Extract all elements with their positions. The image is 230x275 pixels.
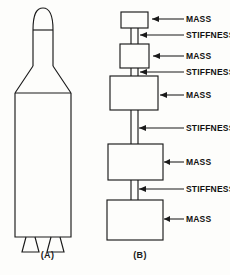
interstage-flare xyxy=(15,66,71,93)
annotation-label-mass-1: MASS xyxy=(186,15,211,24)
annotation-label-mass-5: MASS xyxy=(186,215,211,224)
leader-stiffness-4 xyxy=(139,186,184,192)
stiffness-rod-2 xyxy=(131,68,138,76)
nose-cone xyxy=(33,8,53,30)
panel-b-caption: (B) xyxy=(105,250,175,260)
mass-box-2 xyxy=(120,44,149,68)
mass-box-4 xyxy=(108,144,163,180)
leader-mass-1 xyxy=(152,16,184,22)
mass-box-1 xyxy=(121,12,148,28)
stiffness-rod-1 xyxy=(131,28,138,44)
mass-box-5 xyxy=(107,200,163,240)
leader-mass-3 xyxy=(160,92,184,98)
annotation-label-mass-2: MASS xyxy=(186,52,211,61)
leader-stiffness-2 xyxy=(140,69,184,75)
leader-mass-2 xyxy=(153,53,184,59)
annotation-label-stiffness-2: STIFFNESS xyxy=(186,68,230,77)
figure-rocket-lumped-mass-model: MASS STIFFNESS MASS STIFFNESS MASS STIFF… xyxy=(0,0,230,275)
leader-mass-4 xyxy=(164,159,184,165)
leader-mass-5 xyxy=(164,216,184,222)
stiffness-rod-4 xyxy=(131,180,138,200)
panel-a-caption: (A) xyxy=(0,250,95,260)
mass-box-3 xyxy=(110,76,158,110)
upper-stage-cylinder xyxy=(33,30,53,66)
annotation-label-stiffness-4: STIFFNESS xyxy=(186,185,230,194)
panel-b-group xyxy=(107,12,163,240)
stiffness-rod-3 xyxy=(131,110,138,144)
main-body-cylinder xyxy=(15,93,71,237)
leader-stiffness-1 xyxy=(140,32,184,38)
annotation-label-stiffness-3: STIFFNESS xyxy=(186,124,230,133)
figure-drawing xyxy=(0,0,230,275)
annotation-leaders xyxy=(139,16,184,222)
leader-stiffness-3 xyxy=(139,125,184,131)
annotation-label-stiffness-1: STIFFNESS xyxy=(186,31,230,40)
annotation-label-mass-3: MASS xyxy=(186,91,211,100)
annotation-label-mass-4: MASS xyxy=(186,158,211,167)
panel-a-group xyxy=(15,8,71,252)
